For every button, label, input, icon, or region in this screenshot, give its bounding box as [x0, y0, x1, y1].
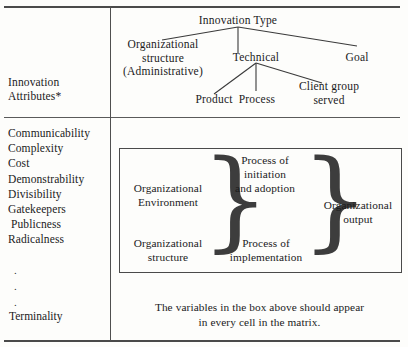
rule-bottom: [4, 340, 400, 342]
list-item: Cost: [8, 156, 106, 171]
attributes-header-line1: Innovation: [8, 76, 106, 90]
tree-node-client-group-served: Client group served: [290, 80, 368, 107]
figure-note-line1: The variables in the box above should ap…: [119, 300, 400, 315]
process-variables-box: Organizational Environment Organizationa…: [119, 148, 402, 273]
tree-node-line3: (Administrative): [110, 65, 216, 79]
list-item: Demonstrability: [8, 172, 106, 187]
box-label-organizational-output: Organizational output: [316, 199, 400, 227]
box-label-line2: output: [316, 213, 400, 227]
vertical-ellipsis: . . .: [14, 262, 17, 310]
list-item: Radicalness: [8, 232, 106, 247]
box-label-line1: Process of: [218, 154, 312, 168]
box-label-line1: Organizational: [316, 199, 400, 213]
tree-node-root: Innovation Type: [188, 14, 288, 28]
box-label-line2: initiation: [218, 168, 312, 182]
tree-node-line2: served: [290, 94, 368, 108]
list-item: Gatekeepers: [8, 202, 106, 217]
ellipsis-dot: .: [14, 294, 17, 310]
innovation-attributes-header: Innovation Attributes*: [8, 76, 106, 103]
list-item: Divisibility: [8, 187, 106, 202]
figure-note: The variables in the box above should ap…: [119, 300, 400, 329]
list-item: Complexity: [8, 141, 106, 156]
list-item-terminality: Terminality: [9, 310, 63, 322]
rule-middle: [4, 117, 400, 118]
tree-node-organizational-structure: Organizational structure (Administrative…: [110, 38, 216, 79]
ellipsis-dot: .: [14, 262, 17, 278]
ellipsis-dot: .: [14, 278, 17, 294]
tree-node-line2: structure: [110, 52, 216, 66]
list-item: Communicability: [8, 126, 106, 141]
attributes-header-line2: Attributes*: [8, 90, 106, 104]
figure-container: Innovation Attributes* Communicability C…: [0, 0, 408, 347]
tree-node-technical: Technical: [218, 51, 294, 65]
tree-node-line1: Client group: [290, 80, 368, 94]
list-item: Publicness: [8, 217, 106, 232]
figure-note-line2: in every cell in the matrix.: [119, 315, 400, 330]
attributes-list: Communicability Complexity Cost Demonstr…: [8, 126, 106, 248]
tree-node-line1: Organizational: [110, 38, 216, 52]
box-label-line3: and adoption: [218, 182, 312, 196]
tree-node-process: Process: [227, 93, 287, 107]
box-label-process-of-initiation: Process of initiation and adoption: [218, 154, 312, 195]
tree-node-goal: Goal: [332, 51, 382, 65]
innovation-type-tree: Innovation Type Organizational structure…: [110, 6, 408, 117]
